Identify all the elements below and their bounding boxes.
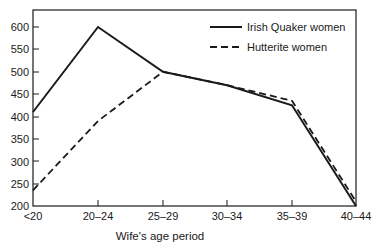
series-line-hutterite: [33, 72, 356, 202]
chart-canvas: 600 550 500 450 400 350 300 250 200 <20 …: [0, 0, 378, 248]
x-tick-label: 35–39: [277, 210, 308, 222]
x-tick-label: 30–34: [212, 210, 243, 222]
plot-frame: [33, 10, 356, 206]
series-line-irish-quaker: [33, 27, 356, 206]
y-tick-label: 350: [11, 133, 29, 145]
x-axis-ticks: <20 20–24 25–29 30–34 35–39 40–44: [24, 210, 372, 222]
x-tick-label: 20–24: [83, 210, 114, 222]
y-axis-ticks: 600 550 500 450 400 350 300 250 200: [11, 21, 29, 212]
x-tick-marks: [98, 200, 292, 206]
x-tick-label: 40–44: [341, 210, 372, 222]
x-tick-label: 25–29: [148, 210, 179, 222]
y-tick-label: 500: [11, 66, 29, 78]
y-tick-label: 250: [11, 178, 29, 190]
y-tick-label: 550: [11, 43, 29, 55]
y-tick-label: 600: [11, 21, 29, 33]
legend: Irish Quaker women Hutterite women: [210, 21, 345, 53]
y-tick-label: 300: [11, 156, 29, 168]
x-tick-label: <20: [24, 210, 43, 222]
y-tick-label: 400: [11, 111, 29, 123]
x-axis-label: Wife's age period: [116, 230, 205, 242]
legend-label: Hutterite women: [247, 41, 327, 53]
y-tick-label: 450: [11, 88, 29, 100]
legend-label: Irish Quaker women: [247, 21, 345, 33]
